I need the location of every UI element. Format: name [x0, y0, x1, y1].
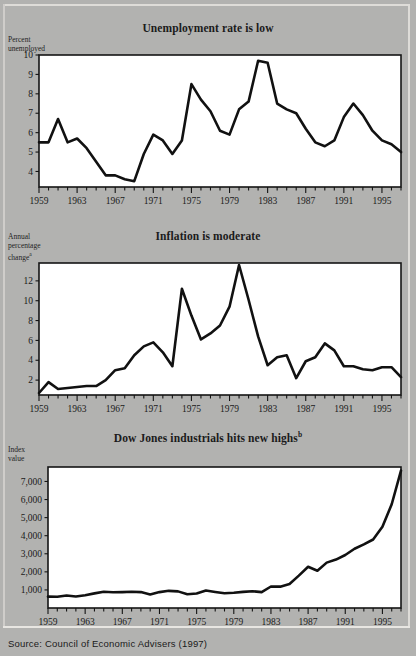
x-axis-tick-label: 1963 [68, 196, 87, 206]
y-axis-tick-label: 2,000 [21, 567, 43, 577]
x-axis-tick-label: 1983 [261, 617, 280, 627]
x-axis-tick-label: 1975 [182, 196, 201, 206]
x-axis-tick-label: 1987 [296, 404, 315, 414]
y-axis-tick-label: 1,000 [21, 585, 43, 595]
x-axis-tick-label: 1991 [334, 196, 353, 206]
x-axis-tick-label: 1975 [182, 404, 201, 414]
y-axis-tick-label: 8 [28, 89, 33, 99]
x-axis-tick-label: 1991 [336, 617, 355, 627]
y-axis-tick-label: 6 [28, 336, 33, 346]
x-axis-tick-label: 1959 [30, 196, 49, 206]
y-axis-tick-label: 7,000 [21, 477, 43, 487]
y-axis-tick-label: 8 [28, 316, 33, 326]
x-axis-tick-label: 1995 [373, 617, 392, 627]
plot-frame [39, 55, 401, 187]
x-axis-tick-label: 1995 [372, 196, 391, 206]
y-caption-superscript: a [29, 251, 31, 257]
x-axis-tick-label: 1979 [220, 404, 239, 414]
x-axis-tick-label: 1987 [299, 617, 318, 627]
x-axis-tick-label: 1967 [106, 404, 125, 414]
x-axis-tick-label: 1971 [150, 617, 169, 627]
chart-title-dow-jones: Dow Jones industrials hits new highsb [0, 430, 416, 444]
y-caption-line1: Index [8, 445, 25, 454]
chart-title-unemployment: Unemployment rate is low [0, 20, 416, 34]
x-axis-tick-label: 1967 [106, 196, 125, 206]
y-axis-tick-label: 4,000 [21, 531, 43, 541]
y-axis-tick-label: 2 [28, 375, 33, 385]
x-axis-tick-label: 1983 [258, 404, 277, 414]
y-axis-tick-label: 9 [28, 70, 33, 80]
figure-page: Unemployment rate is low Percent unemplo… [0, 0, 416, 656]
x-axis-tick-label: 1963 [68, 404, 87, 414]
x-axis-tick-label: 1987 [296, 196, 315, 206]
x-axis-tick-label: 1979 [224, 617, 243, 627]
plot-frame [48, 467, 401, 608]
x-axis-tick-label: 1971 [144, 196, 163, 206]
chart-title-inflation: Inflation is moderate [0, 228, 416, 242]
plot-area-inflation: 1210864219591963196719711975197919831987… [0, 258, 416, 423]
plot-area-dow-jones: 7,0006,0005,0004,0003,0002,0001,00019591… [0, 460, 416, 635]
x-axis-tick-label: 1983 [258, 196, 277, 206]
y-axis-tick-label: 10 [24, 296, 34, 306]
plot-area-unemployment: 1098765419591963196719711975197919831987… [0, 50, 416, 215]
x-axis-tick-label: 1971 [144, 404, 163, 414]
y-caption-line1: Percent [8, 35, 45, 44]
y-axis-tick-label: 6,000 [21, 495, 43, 505]
source-note: Source: Council of Economic Advisers (19… [8, 638, 207, 649]
x-axis-tick-label: 1991 [334, 404, 353, 414]
x-axis-tick-label: 1967 [113, 617, 132, 627]
y-axis-tick-label: 6 [28, 128, 33, 138]
y-axis-tick-label: 5,000 [21, 513, 43, 523]
y-caption-line1: Annual [8, 232, 40, 241]
chart-title-text: Dow Jones industrials hits new highs [114, 432, 298, 444]
chart-title-text: Inflation is moderate [156, 230, 261, 242]
page-frame-top [3, 4, 410, 6]
y-caption-line2: percentage [8, 241, 40, 250]
y-axis-tick-label: 4 [28, 355, 33, 365]
chart-title-superscript: b [298, 430, 302, 439]
y-axis-tick-label: 10 [24, 50, 34, 60]
y-axis-tick-label: 12 [24, 276, 34, 286]
x-axis-tick-label: 1963 [76, 617, 95, 627]
x-axis-tick-label: 1959 [30, 404, 49, 414]
y-axis-tick-label: 5 [28, 147, 33, 157]
y-axis-tick-label: 4 [28, 167, 33, 177]
y-axis-tick-label: 7 [28, 108, 33, 118]
chart-title-text: Unemployment rate is low [142, 22, 273, 34]
x-axis-tick-label: 1995 [372, 404, 391, 414]
x-axis-tick-label: 1975 [187, 617, 206, 627]
y-axis-tick-label: 3,000 [21, 549, 43, 559]
x-axis-tick-label: 1959 [39, 617, 58, 627]
x-axis-tick-label: 1979 [220, 196, 239, 206]
plot-frame [39, 263, 401, 395]
